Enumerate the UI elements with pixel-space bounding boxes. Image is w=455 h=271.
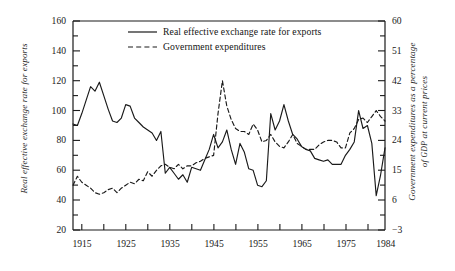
y-axis-right-ticks <box>378 21 385 230</box>
plot-canvas <box>0 0 455 271</box>
series-line-exchange-rate <box>73 82 385 195</box>
plot-frame <box>73 21 385 230</box>
x-axis-ticks <box>82 224 368 230</box>
series-group <box>73 81 385 196</box>
legend-swatches <box>128 32 157 47</box>
chart-figure: Real effective exchange rate for exports… <box>0 0 455 271</box>
